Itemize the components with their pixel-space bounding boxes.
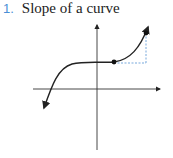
point-b	[144, 31, 149, 36]
rise-run-triangle	[114, 33, 146, 63]
slope-diagram	[0, 0, 173, 158]
point-a	[112, 60, 117, 65]
curve	[44, 27, 148, 108]
